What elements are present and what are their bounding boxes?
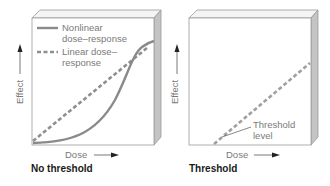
legend-nonlinear-line1: Nonlinear <box>62 22 103 33</box>
x-axis-label: Dose <box>65 149 87 160</box>
legend-nonlinear-line2: dose–response <box>62 33 127 44</box>
x-axis-label: Dose <box>226 149 248 160</box>
threshold-annotation-line1: Threshold <box>253 119 295 130</box>
threshold-annotation-line2: level <box>253 130 273 141</box>
legend-linear-line2: response <box>62 57 101 68</box>
x-axis-arrow-icon <box>111 153 119 158</box>
panel-title-threshold: Threshold <box>189 163 237 174</box>
legend-linear-line1: Linear dose– <box>62 46 118 57</box>
panel-threshold: Threshold level Effect Dose <box>169 10 318 160</box>
box-top-face <box>32 10 161 18</box>
y-axis-label: Effect <box>169 80 180 104</box>
diagram-canvas: Nonlinear dose–response Linear dose– res… <box>0 0 330 186</box>
box-side-face <box>154 10 161 145</box>
panel-no-threshold: Nonlinear dose–response Linear dose– res… <box>14 10 161 160</box>
y-axis-label: Effect <box>14 80 25 104</box>
x-axis-arrow-icon <box>272 153 280 158</box>
box-top-face <box>189 10 318 18</box>
box-side-face <box>311 10 318 145</box>
panel-title-no-threshold: No threshold <box>31 163 93 174</box>
y-axis-arrow-icon <box>175 44 180 52</box>
y-axis-arrow-icon <box>18 44 23 52</box>
